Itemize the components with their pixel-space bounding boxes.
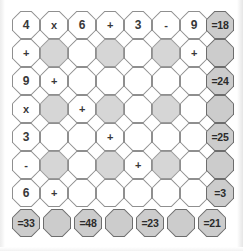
column-result-2[interactable] <box>43 209 71 237</box>
grid-cell-r6-c5[interactable]: + <box>124 151 152 179</box>
cell-face: 4 <box>13 12 39 38</box>
grid-cell-r1-c1[interactable]: 4 <box>12 11 40 39</box>
cell-face: x <box>13 96 39 122</box>
grid-cell-r4-c2[interactable] <box>40 95 68 123</box>
grid-cell-r5-c5[interactable] <box>124 123 152 151</box>
row-result-3[interactable]: =24 <box>206 67 234 95</box>
column-result-6[interactable] <box>167 209 195 237</box>
grid-cell-r4-c6[interactable] <box>152 95 180 123</box>
cell-face: =48 <box>75 210 101 236</box>
cell-face <box>125 96 151 122</box>
grid-cell-r5-c7[interactable] <box>180 123 208 151</box>
grid-cell-r5-c6[interactable] <box>152 123 180 151</box>
grid-cell-r6-c4[interactable] <box>96 151 124 179</box>
grid-cell-r3-c5[interactable] <box>124 67 152 95</box>
row-result-2[interactable] <box>206 39 234 67</box>
grid-cell-r6-c3[interactable] <box>68 151 96 179</box>
cell-face <box>153 40 179 66</box>
grid-cell-r2-c2[interactable] <box>40 39 68 67</box>
column-result-5[interactable]: =23 <box>136 209 164 237</box>
row-result-4[interactable] <box>206 95 234 123</box>
grid-cell-r4-c7[interactable] <box>180 95 208 123</box>
cell-face: =23 <box>137 210 163 236</box>
grid-cell-r1-c6[interactable]: - <box>152 11 180 39</box>
cell-face <box>41 40 67 66</box>
cell-face <box>125 124 151 150</box>
grid-cell-r7-c2[interactable]: + <box>40 179 68 207</box>
cell-label: + <box>79 104 85 115</box>
grid-cell-r1-c5[interactable]: 3 <box>124 11 152 39</box>
grid-cell-r7-c1[interactable]: 6 <box>12 179 40 207</box>
grid-cell-r2-c5[interactable] <box>124 39 152 67</box>
cell-label: =3 <box>214 188 226 199</box>
grid-cell-r2-c6[interactable] <box>152 39 180 67</box>
grid-cell-r2-c3[interactable] <box>68 39 96 67</box>
grid-cell-r4-c4[interactable] <box>96 95 124 123</box>
grid-cell-r5-c1[interactable]: 3 <box>12 123 40 151</box>
grid-cell-r5-c2[interactable] <box>40 123 68 151</box>
cell-face <box>69 68 95 94</box>
grid-cell-r3-c3[interactable] <box>68 67 96 95</box>
cell-label: =33 <box>17 218 34 229</box>
cell-label: + <box>191 48 197 59</box>
cell-face: 9 <box>181 12 207 38</box>
grid-cell-r6-c1[interactable]: - <box>12 151 40 179</box>
grid-cell-r5-c4[interactable]: + <box>96 123 124 151</box>
cell-face <box>125 68 151 94</box>
row-result-7[interactable]: =3 <box>206 179 234 207</box>
grid-cell-r1-c2[interactable]: x <box>40 11 68 39</box>
cell-face <box>153 152 179 178</box>
cell-face <box>207 152 233 178</box>
cell-face: 6 <box>69 12 95 38</box>
row-result-5[interactable]: =25 <box>206 123 234 151</box>
cell-face <box>44 210 70 236</box>
grid-cell-r7-c6[interactable] <box>152 179 180 207</box>
column-result-7[interactable]: =21 <box>198 209 226 237</box>
grid-cell-r7-c5[interactable] <box>124 179 152 207</box>
grid-cell-r3-c6[interactable] <box>152 67 180 95</box>
grid-cell-r4-c1[interactable]: x <box>12 95 40 123</box>
grid-cell-r7-c3[interactable] <box>68 179 96 207</box>
grid-cell-r7-c7[interactable] <box>180 179 208 207</box>
grid-cell-r6-c7[interactable] <box>180 151 208 179</box>
cell-face: =24 <box>207 68 233 94</box>
row-result-6[interactable] <box>206 151 234 179</box>
cell-face <box>69 124 95 150</box>
grid-cell-r7-c4[interactable] <box>96 179 124 207</box>
cell-face <box>153 68 179 94</box>
cell-face <box>69 180 95 206</box>
cell-label: 9 <box>191 19 197 31</box>
grid-cell-r3-c2[interactable]: + <box>40 67 68 95</box>
grid-cell-r6-c6[interactable] <box>152 151 180 179</box>
column-result-4[interactable] <box>105 209 133 237</box>
grid-cell-r4-c3[interactable]: + <box>68 95 96 123</box>
row-result-1[interactable]: =18 <box>206 11 234 39</box>
grid-cell-r6-c2[interactable] <box>40 151 68 179</box>
cell-face <box>97 96 123 122</box>
cell-face: =21 <box>199 210 225 236</box>
column-result-1[interactable]: =33 <box>12 209 40 237</box>
cell-label: x <box>23 104 29 115</box>
grid-cell-r4-c5[interactable] <box>124 95 152 123</box>
cell-face <box>41 124 67 150</box>
grid-cell-r3-c1[interactable]: 9 <box>12 67 40 95</box>
cell-face <box>181 68 207 94</box>
cell-face <box>41 96 67 122</box>
grid-cell-r5-c3[interactable] <box>68 123 96 151</box>
grid-cell-r3-c4[interactable] <box>96 67 124 95</box>
grid-cell-r2-c4[interactable] <box>96 39 124 67</box>
cell-face: + <box>97 124 123 150</box>
cell-face: =33 <box>13 210 39 236</box>
puzzle-root: 4x6+3-9++9+x+3+-+6+=18=24=25=3=33=48=23=… <box>0 0 243 251</box>
cell-face <box>106 210 132 236</box>
cell-face <box>168 210 194 236</box>
column-result-3[interactable]: =48 <box>74 209 102 237</box>
grid-cell-r2-c7[interactable]: + <box>180 39 208 67</box>
grid-cell-r2-c1[interactable]: + <box>12 39 40 67</box>
cell-face: =18 <box>207 12 233 38</box>
grid-cell-r1-c3[interactable]: 6 <box>68 11 96 39</box>
grid-cell-r1-c7[interactable]: 9 <box>180 11 208 39</box>
grid-cell-r1-c4[interactable]: + <box>96 11 124 39</box>
cell-label: 6 <box>23 187 29 199</box>
grid-cell-r3-c7[interactable] <box>180 67 208 95</box>
